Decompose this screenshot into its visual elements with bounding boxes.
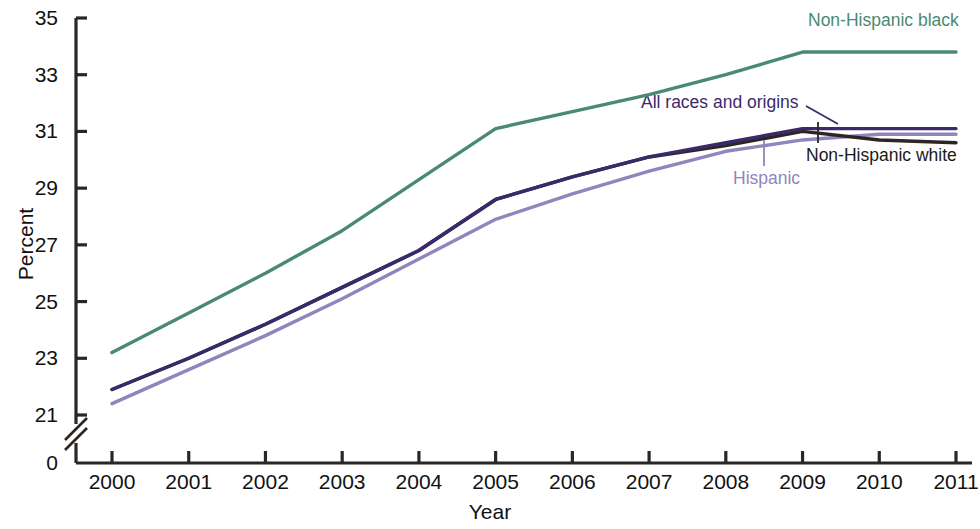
data-line <box>112 129 956 390</box>
data-line <box>112 131 956 389</box>
axes <box>65 18 972 463</box>
chart-container: Percent Year 02123252729313335 200020012… <box>0 0 980 529</box>
data-lines <box>112 52 956 404</box>
data-line <box>112 134 956 403</box>
leader-line <box>806 106 838 124</box>
plot-area <box>0 0 980 529</box>
data-line <box>112 52 956 353</box>
